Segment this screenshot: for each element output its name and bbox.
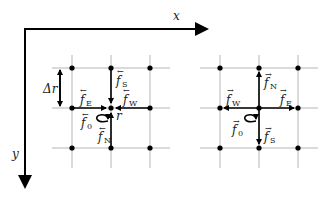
label-f-e: → f E [279,86,292,108]
label-f-0: → f 0 [231,117,243,138]
axes: x y [11,9,207,187]
x-axis-label: x [173,9,180,23]
svg-text:0: 0 [87,122,92,131]
position-label: r [116,109,123,123]
label-f-n: → f N [263,70,277,91]
svg-text:0: 0 [238,129,243,138]
rest-loop-icon [245,115,256,122]
label-f-0: ← f 0 [80,110,92,131]
label-f-s: → f S [263,124,275,145]
svg-text:W: W [129,99,138,108]
svg-text:S: S [270,136,275,145]
label-f-s: ← f S [115,67,127,89]
svg-text:W: W [232,99,241,108]
label-f-w: → f W [225,86,241,108]
svg-text:N: N [104,136,111,145]
label-f-w: ← f W [122,86,138,108]
label-f-e: ← f E [79,86,92,108]
left-grid: Δr ← f E ← f W ← f S ← f N ← f [42,55,170,168]
svg-text:S: S [122,80,127,89]
svg-text:E: E [86,99,92,108]
y-axis-label: y [11,147,19,161]
spacing-label: Δr [42,82,59,96]
svg-text:N: N [270,82,277,91]
label-f-n: ← f N [97,124,111,145]
right-grid: → f W → f E → f N → f S → f 0 [200,55,318,168]
lattice-diagram: x y Δr ← f E ← f [0,0,335,197]
rest-loop-icon [97,115,108,122]
svg-text:E: E [286,99,292,108]
